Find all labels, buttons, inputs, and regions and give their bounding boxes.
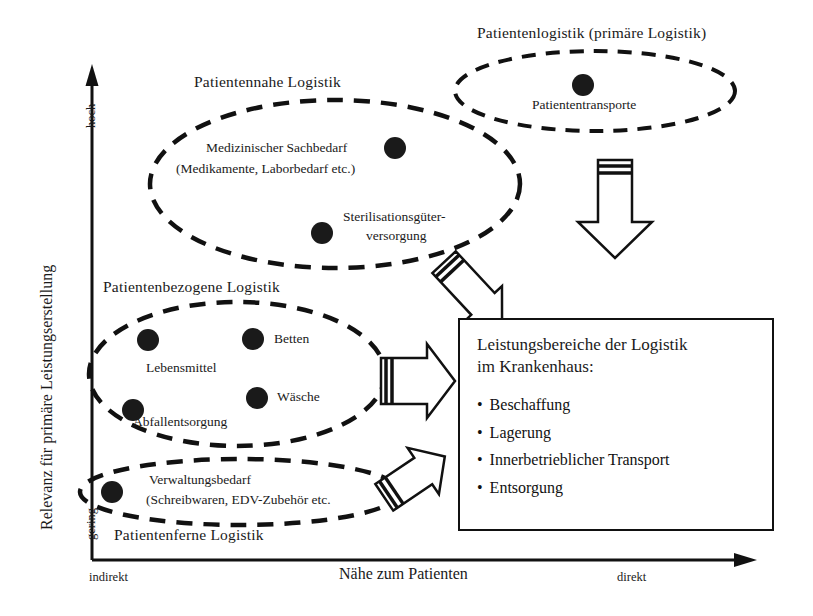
bullet-icon: • bbox=[477, 477, 483, 499]
y-axis bbox=[86, 64, 99, 560]
group-title-patientenlogistik: Patientenlogistik (primäre Logistik) bbox=[477, 24, 706, 41]
item-label-verwaltungsbedarf-detail: (Schreibwaren, EDV-Zubehör etc. bbox=[146, 492, 331, 507]
dot-patiententransporte bbox=[572, 74, 594, 96]
item-label-sterilisationsgueterversorgung-line1: Sterilisationsgüter- bbox=[343, 209, 445, 224]
y-axis-tick-low: gering bbox=[84, 508, 98, 540]
infobox-bullet-beschaffung: Beschaffung bbox=[490, 394, 571, 416]
bullet-icon: • bbox=[477, 449, 483, 471]
x-axis-label: Nähe zum Patienten bbox=[339, 565, 468, 583]
group-title-patientenbezogene: Patientenbezogene Logistik bbox=[103, 278, 280, 295]
x-axis-tick-direkt: direkt bbox=[617, 570, 646, 584]
group-title-patientenferne: Patientenferne Logistik bbox=[114, 526, 264, 543]
dot-sterilisationsgueterversorgung bbox=[311, 222, 333, 244]
infobox-title-line2: im Krankenhaus: bbox=[477, 356, 594, 378]
list-item: • Beschaffung bbox=[477, 394, 670, 416]
item-label-medizinischer-sachbedarf-detail: (Medikamente, Laborbedarf etc.) bbox=[176, 161, 355, 176]
diagram-canvas: Patientenlogistik (primäre Logistik) Pat… bbox=[0, 0, 813, 616]
item-label-sterilisationsgueterversorgung-line2: versorgung bbox=[366, 228, 427, 243]
bullet-icon: • bbox=[477, 394, 483, 416]
infobox-bullet-list: • Beschaffung • Lagerung • Innerbetriebl… bbox=[477, 394, 670, 498]
y-axis-label: Relevanz für primäre Leistungserstellung bbox=[38, 265, 56, 530]
item-label-betten: Betten bbox=[274, 331, 309, 346]
arrow-right-patientenbezogene bbox=[381, 344, 455, 418]
item-label-patiententransporte: Patiententransporte bbox=[532, 97, 636, 112]
list-item: • Entsorgung bbox=[477, 477, 670, 499]
item-label-abfallentsorgung: Abfallentsorgung bbox=[133, 414, 227, 429]
list-item: • Lagerung bbox=[477, 422, 670, 444]
ellipse-patientenlogistik bbox=[455, 51, 735, 131]
dot-waesche bbox=[246, 387, 268, 409]
item-label-waesche: Wäsche bbox=[277, 389, 320, 404]
item-label-medizinischer-sachbedarf: Medizinischer Sachbedarf bbox=[206, 140, 347, 155]
infobox-bullet-entsorgung: Entsorgung bbox=[490, 477, 563, 499]
item-label-verwaltungsbedarf: Verwaltungsbedarf bbox=[149, 472, 251, 487]
bullet-icon: • bbox=[477, 422, 483, 444]
group-title-patientennahe: Patientennahe Logistik bbox=[194, 73, 341, 90]
item-label-lebensmittel: Lebensmittel bbox=[146, 360, 216, 375]
y-axis-tick-high: hoch bbox=[84, 104, 98, 128]
infobox-bullet-lagerung: Lagerung bbox=[490, 422, 551, 444]
infobox-title-line1: Leistungsbereiche der Logistik bbox=[477, 334, 688, 356]
list-item: • Innerbetrieblicher Transport bbox=[477, 449, 670, 471]
arrow-down-primary bbox=[578, 160, 652, 258]
dot-medizinischer-sachbedarf bbox=[384, 137, 406, 159]
infobox-bullet-innerbetrieblicher-transport: Innerbetrieblicher Transport bbox=[490, 449, 670, 471]
dot-betten bbox=[242, 328, 264, 350]
dot-lebensmittel bbox=[137, 329, 159, 351]
x-axis-tick-indirekt: indirekt bbox=[89, 570, 128, 584]
dot-verwaltungsbedarf bbox=[101, 481, 123, 503]
ellipse-patientennahe bbox=[150, 100, 520, 268]
infobox-leistungsbereiche: Leistungsbereiche der Logistik im Kranke… bbox=[458, 318, 774, 531]
